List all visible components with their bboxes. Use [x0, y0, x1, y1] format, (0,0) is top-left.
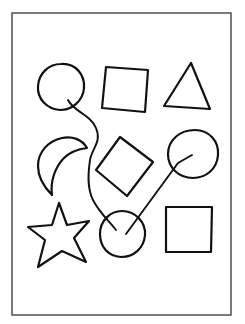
- worksheet-frame: [12, 13, 231, 315]
- diamond-center: [96, 137, 153, 196]
- circle-top-left: [38, 64, 84, 110]
- crescent-middle-left: [38, 137, 87, 195]
- shapes-worksheet: [0, 0, 245, 324]
- straight-line-circle-to-circle: [126, 155, 192, 234]
- curvy-line-circle-to-circle: [68, 100, 116, 230]
- square-bottom-right: [166, 207, 212, 252]
- star-bottom-left: [28, 203, 89, 267]
- triangle-top-right: [164, 63, 210, 109]
- circle-middle-right: [168, 130, 218, 178]
- square-top-middle: [102, 67, 148, 112]
